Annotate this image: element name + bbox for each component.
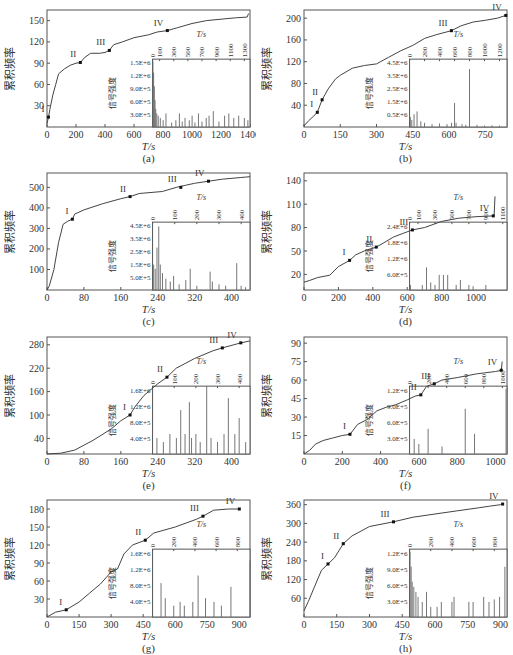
stage-label: II (411, 382, 417, 392)
chart-svg: 02004006008001000153045607590T/s累积频率3.0E… (257, 327, 513, 491)
y-tick-label: 150 (29, 522, 44, 533)
x-tick-label: 200 (331, 292, 346, 303)
inset-y-tick-label: 8.0E+5 (130, 419, 151, 427)
y-tick-label: 500 (29, 182, 44, 193)
x-axis-label: T/s (399, 303, 412, 315)
stage-marker (71, 218, 74, 221)
x-tick-label: 600 (127, 129, 142, 140)
chart-panel-d: 02004006008001000205080110140T/s累积频率6.0E… (257, 163, 513, 327)
x-tick-label: 750 (460, 619, 475, 630)
x-tick-label: 400 (365, 292, 380, 303)
inset-x-tick-label: 800 (466, 46, 474, 57)
inset-y-tick-label: 1.2E+6 (130, 72, 151, 80)
stage-marker (327, 562, 330, 565)
inset-x-tick-label: 0 (406, 53, 414, 57)
inset-x-tick-label: 800 (480, 373, 488, 384)
inset-y-tick-label: 6.0E+5 (130, 98, 151, 106)
x-tick-label: 1200 (211, 129, 231, 140)
x-tick-label: 400 (373, 456, 388, 467)
stage-label: II (157, 364, 163, 374)
stage-marker (321, 98, 324, 101)
inset-y-tick-label: 1.2E+6 (130, 566, 151, 574)
x-axis-label: T/s (142, 303, 155, 315)
y-tick-label: 15 (291, 430, 301, 441)
x-tick-label: 200 (335, 456, 350, 467)
y-tick-label: 180 (29, 504, 44, 515)
inset-y-tick-label: 3.0E+5 (387, 598, 408, 606)
stage-marker (47, 116, 50, 119)
y-tick-label: 30 (34, 594, 44, 605)
inset-y-tick-label: 6.0E+5 (387, 582, 408, 590)
x-tick-label: 900 (232, 619, 247, 630)
stage-label: IV (488, 357, 498, 367)
x-tick-label: 300 (362, 619, 377, 630)
stage-marker (504, 14, 507, 17)
stage-label: I (65, 206, 68, 216)
x-tick-label: 0 (302, 619, 307, 630)
y-axis-label: 累积频率 (3, 47, 16, 91)
y-tick-label: 180 (286, 555, 301, 566)
inset-x-tick-label: 100 (156, 46, 164, 57)
x-tick-label: 600 (427, 619, 442, 630)
inset-y-axis-label: 信号强度 (107, 77, 117, 109)
y-axis-label: 累积频率 (3, 210, 16, 254)
x-tick-label: 600 (168, 619, 183, 630)
inset-x-tick-label: 200 (170, 536, 178, 547)
x-tick-label: 320 (187, 456, 202, 467)
stage-label: III (168, 174, 177, 184)
inset-x-axis-label: T/s (196, 357, 206, 366)
inset-x-tick-label: 300 (431, 209, 439, 220)
inset-x-tick-label: 200 (427, 536, 435, 547)
inset-x-tick-label: 1300 (241, 43, 249, 58)
stage-marker (239, 341, 242, 344)
inset-x-axis-label: T/s (453, 520, 463, 529)
stage-label: I (343, 247, 346, 257)
inset-y-tick-label: 1.6E+6 (130, 387, 151, 395)
y-tick-label: 60 (291, 593, 301, 604)
inset-x-tick-label: 200 (193, 209, 201, 220)
y-tick-label: 80 (291, 222, 301, 233)
y-tick-label: 150 (29, 15, 44, 26)
inset-x-tick-label: 700 (198, 46, 206, 57)
stage-label: III (399, 217, 408, 227)
stage-label: I (41, 104, 44, 114)
inset-x-axis-label: T/s (196, 193, 206, 202)
x-tick-label: 0 (45, 129, 50, 140)
x-axis-label: T/s (399, 140, 412, 152)
chart-svg: 08016024032040040100160220280T/s累积频率4.0E… (0, 327, 256, 491)
stage-label: IV (492, 2, 502, 12)
y-tick-label: 160 (29, 386, 44, 397)
inset-x-axis-label: T/s (196, 520, 206, 529)
y-tick-label: 240 (286, 537, 301, 548)
stage-marker (238, 508, 241, 511)
inset-x-tick-label: 500 (184, 46, 192, 57)
chart-panel-h: 015030045060075090060120180240300360T/s累… (257, 490, 513, 654)
x-tick-label: 150 (333, 129, 348, 140)
panel-caption: (c) (142, 315, 155, 327)
x-tick-label: 400 (224, 456, 239, 467)
inset-y-axis-label: 信号强度 (107, 240, 117, 272)
y-tick-label: 400 (29, 202, 44, 213)
y-tick-label: 220 (29, 363, 44, 374)
inset-x-tick-label: 200 (421, 46, 429, 57)
stage-label: II (366, 234, 372, 244)
x-tick-label: 160 (113, 292, 128, 303)
stage-label: I (59, 597, 62, 607)
y-axis-label: 累积频率 (260, 47, 273, 91)
panel-caption: (g) (142, 642, 155, 654)
chart-svg: 0150300450600750900306090120150180T/s累积频… (0, 490, 256, 654)
stage-label: I (310, 99, 313, 109)
inset-x-tick-label: 600 (451, 46, 459, 57)
stage-marker (179, 186, 182, 189)
stage-marker (419, 393, 422, 396)
inset-y-tick-label: 5.0E+5 (130, 274, 151, 282)
y-tick-label: 40 (291, 100, 301, 111)
x-tick-label: 300 (104, 619, 119, 630)
x-tick-label: 80 (79, 292, 89, 303)
inset-x-tick-label: 1000 (499, 370, 507, 385)
inset-y-tick-label: 4.0E+5 (130, 598, 151, 606)
y-tick-label: 60 (291, 375, 301, 386)
stage-label: III (421, 371, 430, 381)
y-tick-label: 200 (29, 243, 44, 254)
inset-y-tick-label: 1.2E+6 (387, 255, 408, 263)
